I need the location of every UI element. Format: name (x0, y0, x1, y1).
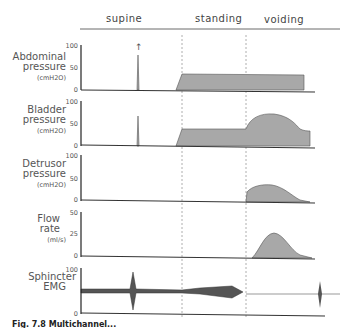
svg-text:pressure: pressure (23, 114, 66, 125)
svg-text:(cmH2O): (cmH2O) (37, 181, 66, 189)
panel-detrusor-pressure: Detrusor pressure (cmH2O) 100 50 0 (22, 152, 315, 204)
svg-text:(ml/s): (ml/s) (47, 236, 66, 244)
svg-text:pressure: pressure (23, 61, 66, 72)
svg-text:50: 50 (70, 209, 78, 217)
svg-text:100: 100 (66, 152, 78, 160)
svg-text:50: 50 (70, 120, 78, 128)
svg-text:pressure: pressure (23, 168, 66, 179)
svg-text:25: 25 (70, 230, 78, 238)
panel-bladder-pressure: Bladder pressure (cmH2O) 100 50 0 (23, 98, 315, 150)
svg-text:EMG: EMG (43, 281, 66, 292)
svg-text:0: 0 (74, 310, 78, 318)
arrow-up-icon: ↑ (135, 42, 143, 52)
phase-label-standing: standing (195, 13, 242, 24)
svg-text:50: 50 (70, 175, 78, 183)
svg-text:0: 0 (74, 196, 78, 204)
phase-label-supine: supine (106, 13, 142, 24)
svg-text:100: 100 (66, 266, 78, 274)
svg-text:50: 50 (70, 64, 78, 72)
svg-text:100: 100 (66, 98, 78, 106)
svg-text:rate: rate (40, 223, 60, 234)
svg-text:100: 100 (66, 42, 78, 50)
svg-text:(cmH2O): (cmH2O) (37, 127, 66, 135)
panel-abdominal-pressure: Abdominal pressure (cmH2O) 100 50 0 ↑ (13, 42, 315, 94)
svg-text:0: 0 (74, 142, 78, 150)
unit-label: (cmH2O) (37, 74, 66, 82)
svg-text:0: 0 (74, 86, 78, 94)
panel-flow-rate: Flow rate (ml/s) 50 25 0 (37, 209, 315, 260)
phase-label-voiding: voiding (264, 14, 304, 25)
figure-caption: Fig. 7.8 Multichannel... (12, 320, 116, 328)
urodynamic-chart: supine standing voiding Abdominal pressu… (0, 0, 353, 328)
svg-text:0: 0 (74, 252, 78, 260)
panel-sphincter-emg: Sphincter EMG 100 0 (28, 266, 340, 318)
